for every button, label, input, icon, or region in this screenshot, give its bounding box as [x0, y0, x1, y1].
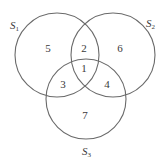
region-label-6: 6 — [117, 42, 123, 54]
set-label-s1: S1 — [10, 19, 20, 33]
region-label-5: 5 — [45, 42, 51, 54]
region-label-7: 7 — [82, 109, 88, 121]
circle-s1 — [15, 13, 99, 97]
set-subscript: 2 — [152, 23, 156, 31]
set-label-s2: S2 — [146, 17, 156, 31]
region-label-4: 4 — [104, 78, 110, 90]
circle-s2 — [71, 13, 155, 97]
venn-diagram: S1 S2 S3 1 2 3 4 5 6 7 — [0, 0, 164, 162]
set-subscript: 1 — [16, 25, 20, 33]
set-label-s3: S3 — [82, 145, 92, 159]
set-subscript: 3 — [88, 151, 92, 159]
region-label-3: 3 — [60, 78, 66, 90]
region-labels: 1 2 3 4 5 6 7 — [45, 42, 123, 121]
region-label-1: 1 — [81, 62, 87, 74]
region-label-2: 2 — [81, 42, 87, 54]
